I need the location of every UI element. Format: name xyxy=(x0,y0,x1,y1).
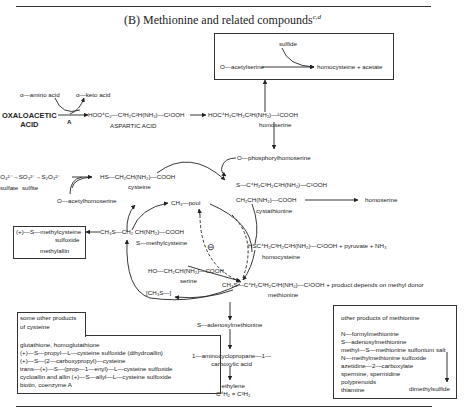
o-acetylserine-label: O—acetylserine xyxy=(220,64,264,70)
cysteine-product-item: trans—(+)—S—(prop—1—enyl)—L—cysteine sul… xyxy=(20,366,173,372)
methylcysteine-box-line3: methylallin xyxy=(40,248,69,254)
enzyme-a-label: A xyxy=(67,119,71,125)
methionine-product-item: S—adenosylmethionine xyxy=(341,339,406,345)
sam-label: S—adenosylmethionine xyxy=(197,322,262,328)
cystathionine-name: cystathionine xyxy=(256,208,292,214)
alpha-keto-acid-label: α—keto acid xyxy=(76,92,111,98)
cysteine-product-item: biotin, coenzyme A xyxy=(20,382,72,388)
dimethylsulfide-label: dimethylsulfide xyxy=(409,386,450,392)
ch3s-fragment: [CH₃S—] xyxy=(146,290,171,296)
cysteine-product-item: cycloallin and allin (+)—S—allyl—L—cyste… xyxy=(20,374,171,380)
methionine-box-header: other products of methionine xyxy=(341,315,419,321)
cysteine-name: cysteine xyxy=(128,184,151,190)
homocysteine-formula: HSC⁴H₂C³H₂C²H(NH₂)—C¹OOH + pyruvate + NH… xyxy=(248,243,387,249)
cystathionine-line1: S—C⁴H₂C³H₂C²H(NH₂)—C¹OOH xyxy=(236,182,327,188)
sulfite-label: sulfite xyxy=(22,185,38,191)
cysteine-product-item: glutathione, homoglutathione xyxy=(20,342,99,348)
methionine-name: methionine xyxy=(268,292,298,298)
serine-formula: HO—CH₂CH(NH₂)—COOH xyxy=(148,268,224,274)
sulfate-chain-formula: SO₄²⁻→SO₃²⁻→S₂O₃²⁻ xyxy=(0,174,60,180)
homocysteine-name: homocysteine xyxy=(262,254,300,260)
homoserine-product-label: homoserine xyxy=(365,197,397,203)
methionine-product-item: methyl—S—methionine sulfonium salt xyxy=(341,347,446,353)
methylcysteine-box-line1: (+)—S—methylcysteine xyxy=(16,229,81,235)
o-acetylhomoserine-label: O—acetylhomoserine xyxy=(57,198,117,204)
cysteine-formula: HS—CH₂CH(NH₂)—COOH xyxy=(100,174,175,180)
homoserine-name: homoserine xyxy=(259,122,291,128)
methionine-product-item: thiamine xyxy=(341,387,364,393)
aspartic-acid-name: ASPARTIC ACID xyxy=(110,123,157,129)
ethylene-label: ethyleneC⁴H₂ = C³H₂ xyxy=(216,382,250,398)
cystathionine-line2: CH₂CH(NH₂)—COOH xyxy=(236,197,297,203)
methylcysteine-box-line2: sulfoxide xyxy=(55,237,79,243)
methionine-formula: CH₃S—C⁴H₂C³H₂C²H(NH₂)—C¹OOH + product de… xyxy=(222,282,424,288)
cysteine-product-item: (+)—S—propyl—L—cysteine sulfoxide (dihyd… xyxy=(20,350,163,356)
alpha-amino-acid-label: α—amino acid xyxy=(20,92,60,98)
serine-name: serine xyxy=(180,278,197,284)
sulfate-label: sulfate xyxy=(0,185,18,191)
methionine-product-item: spermine, spermidine xyxy=(341,371,400,377)
inhibition-symbol: ⊖ xyxy=(207,243,215,252)
methionine-product-item: polyprenoids xyxy=(341,379,376,385)
homoserine-formula: HOC⁴H₂C³H₂C²H(NH₂)—¹COOH xyxy=(208,112,298,118)
aspartic-acid-formula: HOO⁴C₂—C³H₂C²H(NH₂)—C¹OOH xyxy=(88,112,184,118)
methionine-product-item: azetidine—2—carboxylate xyxy=(341,363,413,369)
methionine-product-item: N—formylmethionine xyxy=(341,331,399,337)
oxaloacetic-acid-label: OXALOACETICACID xyxy=(2,112,57,129)
homocysteine-synthesis-box xyxy=(214,33,394,80)
methionine-product-item: N—methylmethionine sulfoxide xyxy=(341,355,426,361)
cysteine-product-item: (+)—S—(2—carboxypropyl)—cysteine xyxy=(20,358,125,364)
ch3-pool-label: CH₃—pool xyxy=(171,200,200,206)
methylcysteine-name: S—methylcysteine xyxy=(136,240,187,246)
sulfide-label: sulfide xyxy=(279,41,297,47)
homocysteine-acetate-label: homocysteine + acetate xyxy=(317,64,383,70)
methylcysteine-formula: CH₃S—CH₂ CH(NH₂)—COOH xyxy=(100,229,184,235)
o-phosphorylhomoserine-label: O—phosphorylhomoserine xyxy=(237,155,311,161)
